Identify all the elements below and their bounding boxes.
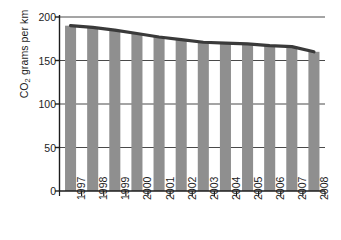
x-tick-label-2000: 2000: [141, 177, 153, 200]
x-tick-label-2003: 2003: [208, 177, 220, 200]
trend-line: [71, 26, 314, 52]
bar-group: [65, 26, 319, 191]
bar-2003: [198, 42, 209, 191]
x-tick-label-1997: 1997: [75, 177, 87, 200]
bar-1998: [87, 27, 98, 191]
bar-1997: [65, 26, 76, 191]
bar-2005: [242, 44, 253, 191]
x-tick-label-2001: 2001: [164, 177, 176, 200]
bar-2004: [220, 43, 231, 191]
x-tick-label-2007: 2007: [296, 177, 308, 200]
bar-2008: [308, 52, 319, 191]
bar-1999: [109, 30, 120, 191]
x-tick-label-2008: 2008: [318, 177, 330, 200]
x-tick-label-2002: 2002: [186, 177, 198, 200]
x-tick-label-1999: 1999: [119, 177, 131, 200]
gridlines: [60, 17, 326, 148]
chart-container: CO2 grams per km 200 150 100 50 0 199719…: [0, 0, 341, 240]
trend-line-group: [71, 26, 314, 52]
bar-2002: [176, 40, 187, 191]
x-tick-label-2005: 2005: [252, 177, 264, 200]
x-tick-label-1998: 1998: [97, 177, 109, 200]
x-tick-label-2006: 2006: [274, 177, 286, 200]
plot-svg: [0, 0, 341, 240]
bar-2001: [154, 37, 165, 191]
bar-2006: [264, 46, 275, 191]
x-tick-label-2004: 2004: [230, 177, 242, 200]
bar-2007: [286, 47, 297, 191]
bar-2000: [131, 34, 142, 191]
